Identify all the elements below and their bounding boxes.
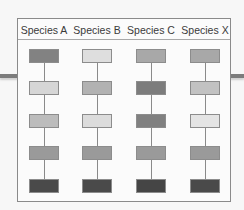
trait-box bbox=[136, 49, 166, 63]
trait-box bbox=[29, 146, 59, 160]
trait-box bbox=[82, 81, 112, 95]
background-bar-right bbox=[230, 74, 244, 78]
background-bar-left bbox=[0, 74, 18, 78]
column-label-species-x: Species X bbox=[178, 24, 232, 36]
trait-box bbox=[82, 179, 112, 193]
trait-box bbox=[29, 49, 59, 63]
header-row: Species A Species B Species C Species X bbox=[18, 19, 230, 40]
column-label-species-a: Species A bbox=[17, 24, 71, 36]
trait-box bbox=[82, 49, 112, 63]
trait-box bbox=[136, 146, 166, 160]
column-label-species-c: Species C bbox=[124, 24, 178, 36]
trait-box bbox=[190, 179, 220, 193]
species-diagram: Species A Species B Species C Species X bbox=[17, 18, 231, 202]
trait-box bbox=[190, 114, 220, 128]
trait-box bbox=[136, 81, 166, 95]
column-label-species-b: Species B bbox=[70, 24, 124, 36]
trait-box bbox=[82, 146, 112, 160]
trait-box bbox=[190, 81, 220, 95]
trait-box bbox=[136, 179, 166, 193]
trait-box bbox=[82, 114, 112, 128]
trait-box bbox=[190, 146, 220, 160]
trait-box bbox=[29, 179, 59, 193]
trait-box bbox=[29, 114, 59, 128]
trait-box bbox=[29, 81, 59, 95]
trait-box bbox=[190, 49, 220, 63]
trait-box bbox=[136, 114, 166, 128]
